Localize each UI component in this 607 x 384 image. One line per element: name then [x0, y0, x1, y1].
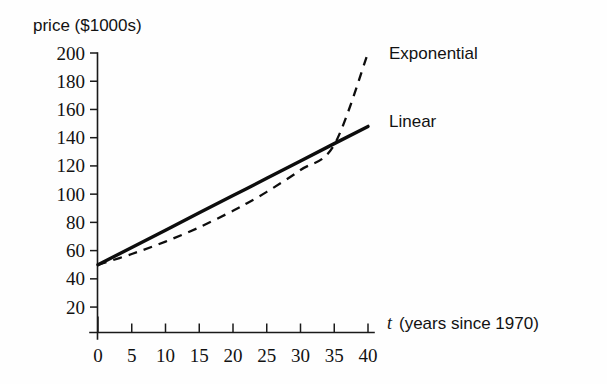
series-line-exponential — [98, 53, 368, 265]
y-axis-ticks — [90, 53, 98, 307]
x-tick-label-30: 30 — [291, 345, 310, 366]
y-tick-label-20: 20 — [66, 297, 85, 318]
x-axis-ticks — [98, 317, 368, 333]
x-tick-label-20: 20 — [224, 345, 243, 366]
x-tick-label-0: 0 — [93, 345, 103, 366]
x-axis-tick-labels: 0510152025303540 — [93, 345, 377, 366]
x-tick-label-10: 10 — [156, 345, 175, 366]
x-tick-label-35: 35 — [325, 345, 344, 366]
y-tick-label-100: 100 — [57, 184, 86, 205]
y-tick-label-180: 180 — [57, 71, 86, 92]
x-tick-label-40: 40 — [359, 345, 378, 366]
x-axis-title-symbol: t — [387, 313, 393, 333]
y-tick-label-200: 200 — [57, 43, 86, 64]
y-tick-label-60: 60 — [66, 240, 85, 261]
x-axis-title-text: (years since 1970) — [399, 314, 539, 333]
chart-canvas: 20406080100120140160180200 0510152025303… — [0, 0, 607, 384]
x-tick-label-15: 15 — [190, 345, 209, 366]
series-label-linear: Linear — [389, 112, 437, 131]
y-axis-tick-labels: 20406080100120140160180200 — [57, 43, 86, 318]
y-tick-label-40: 40 — [66, 268, 85, 289]
series-line-linear — [98, 126, 368, 264]
x-tick-label-5: 5 — [127, 345, 137, 366]
y-axis-title: price ($1000s) — [33, 16, 142, 35]
y-tick-label-140: 140 — [57, 127, 86, 148]
x-tick-label-25: 25 — [257, 345, 276, 366]
price-growth-chart: 20406080100120140160180200 0510152025303… — [0, 0, 607, 384]
y-tick-label-80: 80 — [66, 212, 85, 233]
y-tick-label-120: 120 — [57, 155, 86, 176]
series-label-exponential: Exponential — [389, 44, 478, 63]
y-tick-label-160: 160 — [57, 99, 86, 120]
